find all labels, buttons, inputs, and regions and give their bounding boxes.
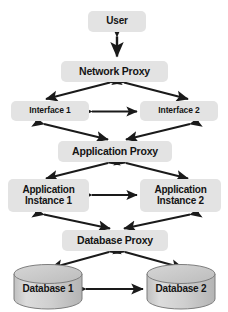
database-2-label: Database 2 — [139, 283, 223, 294]
database-1-label: Database 1 — [6, 283, 90, 294]
connector-instance-2-database-proxy — [124, 215, 190, 229]
node-application-instance-1[interactable]: Application Instance 1 — [8, 179, 89, 212]
connector-application-proxy-instance-1 — [46, 163, 108, 179]
connector-application-proxy-instance-2 — [126, 163, 188, 179]
node-interface-1[interactable]: Interface 1 — [11, 101, 89, 121]
node-interface-2[interactable]: Interface 2 — [140, 101, 218, 121]
connector-instance-1-database-proxy — [44, 215, 110, 229]
connector-network-proxy-interface-1 — [46, 83, 110, 100]
node-user[interactable]: User — [88, 11, 146, 32]
connector-interface-2-application-proxy — [126, 124, 190, 140]
node-application-instance-2[interactable]: Application Instance 2 — [140, 179, 221, 212]
node-network-proxy[interactable]: Network Proxy — [61, 61, 168, 82]
connector-interface-1-application-proxy — [44, 124, 108, 140]
architecture-diagram: Database 1 Database 2 User Network Proxy… — [0, 0, 228, 312]
connector-network-proxy-interface-2 — [124, 83, 188, 100]
node-application-proxy[interactable]: Application Proxy — [58, 141, 172, 162]
node-database-proxy[interactable]: Database Proxy — [62, 230, 168, 251]
